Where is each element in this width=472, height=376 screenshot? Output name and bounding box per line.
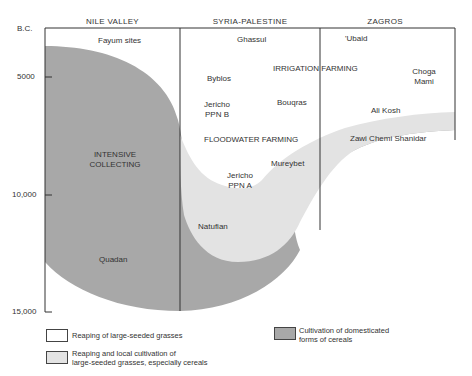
site-fayum: Fayum sites	[98, 36, 141, 46]
site-ghassul: Ghassul	[237, 35, 266, 45]
label-irrigation-farming: IRRIGATION FARMING	[273, 64, 358, 74]
site-ali-kosh: Ali Kosh	[371, 106, 400, 116]
site-bouqras: Bouqras	[277, 98, 307, 108]
site-jericho-ppnb: Jericho PPN B	[198, 100, 236, 120]
header-nile-valley: NILE VALLEY	[70, 17, 155, 27]
axis-unit-label: B.C.	[17, 24, 33, 34]
site-choga-mami: Choga Mami	[404, 67, 444, 87]
site-ubaid: 'Ubaid	[345, 34, 367, 44]
site-byblos: Byblos	[207, 74, 231, 84]
legend-label-reaping: Reaping of large-seeded grasses	[72, 331, 183, 340]
axis-tick-10000: 10,000	[12, 190, 36, 200]
legend-label-local-cultivation: Reaping and local cultivation of large-s…	[72, 349, 208, 367]
site-jericho-ppna: Jericho PPN A	[221, 171, 259, 191]
label-intensive-collecting: INTENSIVE COLLECTING	[70, 150, 160, 170]
legend-swatch-domesticated	[274, 327, 296, 340]
label-floodwater-farming: FLOODWATER FARMING	[204, 135, 298, 145]
site-mureybet: Mureybet	[271, 159, 304, 169]
header-zagros: ZAGROS	[355, 17, 415, 27]
legend-swatch-reaping	[46, 329, 68, 342]
site-natufian: Natufian	[198, 222, 228, 232]
site-zawi-chemi-shanidar: Zawi Chemi Shanidar	[350, 134, 426, 144]
axis-tick-5000: 5000	[17, 72, 35, 82]
legend-label-domesticated: Cultivation of domesticated forms of cer…	[299, 326, 389, 344]
header-syria-palestine: SYRIA-PALESTINE	[200, 17, 300, 27]
site-quadan: Quadan	[99, 255, 127, 265]
legend-swatch-local-cultivation	[46, 351, 68, 364]
axis-tick-15000: 15,000	[12, 307, 36, 317]
